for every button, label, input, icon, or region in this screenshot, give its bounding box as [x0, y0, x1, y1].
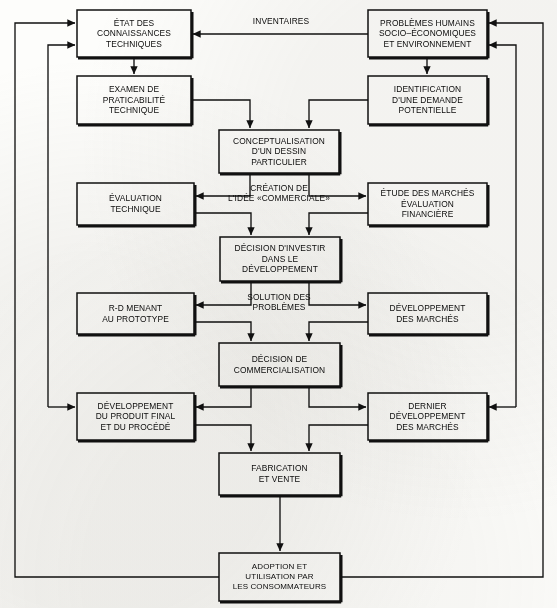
edge-evaltech-to-investir	[194, 213, 251, 235]
edge-label-inventaires: INVENTAIRES	[196, 16, 366, 26]
edge-label-line: SOLUTION DES	[247, 292, 311, 302]
edge-label-line: L'IDÉE «COMMERCIALE»	[228, 193, 330, 203]
feedback-adoption-to-etat-left	[15, 23, 219, 577]
feedback-dernier-to-problemes-right	[489, 45, 516, 407]
edge-examen-to-concept	[191, 100, 250, 128]
edge-devmarches-to-commercial	[309, 322, 368, 341]
edge-label-line: INVENTAIRES	[253, 16, 309, 26]
edge-dernier-to-fabrication	[309, 425, 368, 451]
feedback-adoption-to-problemes-right	[340, 23, 543, 577]
edge-etude-to-investir	[309, 213, 368, 235]
edge-produitfinal-to-fabrication	[194, 425, 251, 451]
edge-rd-to-commercial	[194, 322, 251, 341]
edge-commercial-to-dernier	[309, 386, 366, 407]
edge-commercial-to-produitfinal	[196, 386, 251, 407]
edge-label-creation-idee-commerciale: CRÉATION DE L'IDÉE «COMMERCIALE»	[196, 183, 362, 204]
diagram-canvas: ÉTAT DES CONNAISSANCES TECHNIQUES PROBLÈ…	[0, 0, 557, 608]
edge-label-line: CRÉATION DE	[250, 183, 308, 193]
edge-identification-to-concept	[309, 100, 368, 128]
edge-label-line: PROBLÈMES	[252, 302, 305, 312]
edge-label-solution-des-problemes: SOLUTION DES PROBLÈMES	[196, 292, 362, 313]
feedback-produitfinal-to-etat-left	[48, 45, 75, 407]
